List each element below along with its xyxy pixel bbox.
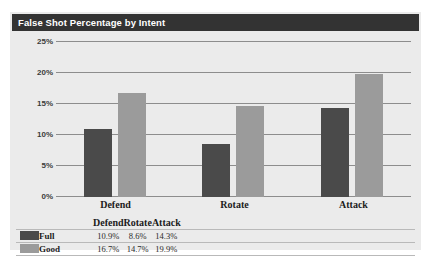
table-col-header-rotate: Rotate (124, 216, 152, 229)
bar-group-defend (65, 33, 164, 197)
y-tick-label-5: 5% (41, 161, 53, 170)
bar-rotate-full (202, 144, 230, 197)
table-rule-bottom (16, 255, 415, 256)
y-tick-label-25: 25% (37, 37, 53, 46)
chart-card: False Shot Percentage by Intent 25% 20% … (10, 12, 421, 250)
legend-swatch-good (20, 244, 39, 253)
table-row: Full 10.9% 8.6% 14.3% (16, 229, 181, 242)
bar-attack-good (355, 74, 383, 197)
bars-layer (56, 33, 411, 197)
cell-full-rotate: 8.6% (124, 229, 152, 242)
bar-rotate-good (236, 106, 264, 197)
bar-group-rotate (184, 33, 283, 197)
bar-defend-full (84, 129, 112, 197)
y-tick-label-0: 0% (41, 192, 53, 201)
cell-full-attack: 14.3% (152, 229, 181, 242)
legend-label-full: Full (39, 229, 93, 242)
category-label-rotate: Rotate (185, 199, 285, 215)
cell-good-rotate: 14.7% (124, 242, 152, 255)
x-axis-categories: Defend Rotate Attack (56, 199, 413, 215)
bar-attack-full (321, 108, 349, 197)
y-tick-label-15: 15% (37, 99, 53, 108)
table-corner-label (39, 216, 93, 229)
cell-good-defend: 16.7% (93, 242, 124, 255)
y-tick-label-20: 20% (37, 68, 53, 77)
bar-group-attack (302, 33, 401, 197)
chart-title: False Shot Percentage by Intent (12, 17, 165, 28)
category-label-defend: Defend (66, 199, 166, 215)
table-header-row: Defend Rotate Attack (16, 216, 181, 229)
y-tick-label-10: 10% (37, 130, 53, 139)
plot-region: 25% 20% 15% 10% 5% 0% (12, 33, 419, 197)
legend-label-good: Good (39, 242, 93, 255)
data-table: Defend Rotate Attack Full 10.9% 8.6% 14.… (16, 216, 181, 255)
legend-swatch-good-cell (16, 242, 39, 255)
chart-title-bar: False Shot Percentage by Intent (12, 14, 419, 31)
table-col-header-attack: Attack (152, 216, 181, 229)
bar-defend-good (118, 93, 146, 197)
cell-good-attack: 19.9% (152, 242, 181, 255)
plot-area (56, 33, 411, 197)
table-col-header-defend: Defend (93, 216, 124, 229)
table-corner-cell (16, 216, 39, 229)
cell-full-defend: 10.9% (93, 229, 124, 242)
category-label-attack: Attack (304, 199, 404, 215)
legend-swatch-full-cell (16, 229, 39, 242)
legend-swatch-full (20, 231, 39, 240)
y-axis: 25% 20% 15% 10% 5% 0% (12, 33, 56, 197)
table-row: Good 16.7% 14.7% 19.9% (16, 242, 181, 255)
